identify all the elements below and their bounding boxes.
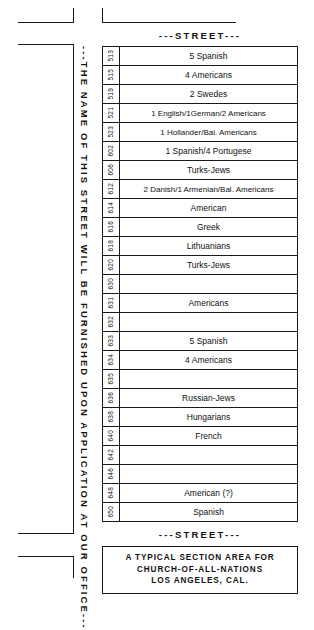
street-corner-rule-mid-left-horizontal	[18, 44, 74, 45]
lot-occupants-cell	[120, 313, 297, 331]
lot-number-text: 640	[108, 430, 115, 441]
street-header-bottom: ---STREET---	[102, 522, 298, 546]
lot-occupants-cell: Russian-Jews	[120, 389, 297, 407]
lot-occupants-cell: Turks-Jews	[120, 161, 297, 179]
lot-number-cell: 614	[103, 199, 120, 217]
table-row: 6021 Spanish/4 Portugese	[103, 142, 297, 161]
table-row: 5192 Swedes	[103, 85, 297, 104]
lot-number-cell: 519	[103, 85, 120, 103]
lot-number-text: 642	[108, 449, 115, 460]
lot-number-cell: 640	[103, 427, 120, 445]
lot-number-text: 638	[108, 411, 115, 422]
lot-occupants-cell: 1 Hollander/Bal. Americans	[120, 123, 297, 141]
table-row: 5135 Spanish	[103, 47, 297, 66]
lot-occupants-cell: American (?)	[120, 484, 297, 502]
caption-line-1: A TYPICAL SECTION AREA FOR	[106, 552, 294, 564]
lot-number-cell: 635	[103, 370, 120, 388]
lot-number-text: 614	[108, 202, 115, 213]
table-row: 630	[103, 275, 297, 294]
lot-occupants-cell: American	[120, 199, 297, 217]
lot-number-cell: 602	[103, 142, 120, 160]
lot-number-text: 631	[108, 297, 115, 308]
vertical-street-name-note: ---THE NAME OF THIS STREET WILL BE FURNI…	[73, 44, 95, 534]
lot-number-cell: 650	[103, 503, 120, 521]
table-row: 636Russian-Jews	[103, 389, 297, 408]
lot-occupants-cell: 1 English/1German/2 Americans	[120, 104, 297, 122]
table-row: 631Americans	[103, 294, 297, 313]
lot-occupants-cell	[120, 465, 297, 483]
lot-number-cell: 606	[103, 161, 120, 179]
lot-number-cell: 638	[103, 408, 120, 426]
lot-number-cell: 632	[103, 313, 120, 331]
lot-occupants-cell: Lithuanians	[120, 237, 297, 255]
lot-occupants-cell: Greek	[120, 218, 297, 236]
street-corner-rule-top-left-horizontal	[18, 22, 74, 23]
lot-occupants-cell	[120, 370, 297, 388]
table-row: 635	[103, 370, 297, 389]
table-row: 614American	[103, 199, 297, 218]
street-corner-rule-bottom-left-horizontal	[18, 533, 74, 534]
lot-number-cell: 515	[103, 66, 120, 84]
table-row: 6344 Americans	[103, 351, 297, 370]
lot-occupants-cell: 5 Spanish	[120, 47, 297, 65]
lot-number-text: 519	[108, 88, 115, 99]
lot-occupants-cell: 2 Danish/1 Armenian/Bal. Americans	[120, 180, 297, 198]
lot-table: 5135 Spanish5154 Americans5192 Swedes521…	[102, 46, 298, 522]
lot-number-text: 635	[108, 373, 115, 384]
lot-number-cell: 634	[103, 351, 120, 369]
lot-number-cell: 618	[103, 237, 120, 255]
table-row: 6335 Spanish	[103, 332, 297, 351]
lot-occupants-cell: Spanish	[120, 503, 297, 521]
lot-number-text: 648	[108, 487, 115, 498]
lot-number-text: 523	[108, 126, 115, 137]
lot-number-cell: 620	[103, 256, 120, 274]
lot-number-cell: 630	[103, 275, 120, 293]
caption-line-3: LOS ANGELES, CAL.	[106, 575, 294, 587]
table-row: 642	[103, 446, 297, 465]
lot-number-text: 618	[108, 240, 115, 251]
table-row: 638Hungarians	[103, 408, 297, 427]
lot-number-text: 620	[108, 259, 115, 270]
lot-number-text: 606	[108, 164, 115, 175]
lot-number-text: 612	[108, 183, 115, 194]
table-row: 646	[103, 465, 297, 484]
lot-number-text: 513	[108, 50, 115, 61]
lot-number-cell: 521	[103, 104, 120, 122]
lot-number-text: 636	[108, 392, 115, 403]
lot-occupants-cell: 4 Americans	[120, 351, 297, 369]
lot-occupants-cell: 5 Spanish	[120, 332, 297, 350]
lot-number-cell: 631	[103, 294, 120, 312]
lot-number-text: 646	[108, 468, 115, 479]
table-row: 606Turks-Jews	[103, 161, 297, 180]
table-row: 620Turks-Jews	[103, 256, 297, 275]
table-row: 5231 Hollander/Bal. Americans	[103, 123, 297, 142]
lot-number-cell: 636	[103, 389, 120, 407]
caption-box: A TYPICAL SECTION AREA FOR CHURCH-OF-ALL…	[102, 546, 298, 594]
caption-line-2: CHURCH-OF-ALL-NATIONS	[106, 564, 294, 576]
lot-number-cell: 648	[103, 484, 120, 502]
table-row: 5154 Americans	[103, 66, 297, 85]
table-row: 650Spanish	[103, 503, 297, 522]
street-corner-rule-top-right-horizontal	[102, 22, 236, 23]
lot-number-cell: 513	[103, 47, 120, 65]
lot-number-text: 515	[108, 69, 115, 80]
table-row: 616Greek	[103, 218, 297, 237]
table-row: 648American (?)	[103, 484, 297, 503]
lot-number-cell: 633	[103, 332, 120, 350]
lot-number-cell: 616	[103, 218, 120, 236]
lot-number-text: 650	[108, 506, 115, 517]
lot-number-text: 521	[108, 107, 115, 118]
lot-number-text: 634	[108, 354, 115, 365]
lot-number-cell: 612	[103, 180, 120, 198]
lot-occupants-cell: Americans	[120, 294, 297, 312]
street-header-top: ---STREET---	[102, 28, 298, 46]
lot-occupants-cell	[120, 275, 297, 293]
lot-occupants-cell	[120, 446, 297, 464]
table-row: 632	[103, 313, 297, 332]
lot-occupants-cell: 2 Swedes	[120, 85, 297, 103]
vertical-street-name-text: ---THE NAME OF THIS STREET WILL BE FURNI…	[73, 44, 95, 630]
lot-occupants-cell: Turks-Jews	[120, 256, 297, 274]
street-corner-rule-top-left-vertical	[73, 8, 74, 23]
lot-number-text: 632	[108, 316, 115, 327]
lot-number-text: 633	[108, 335, 115, 346]
